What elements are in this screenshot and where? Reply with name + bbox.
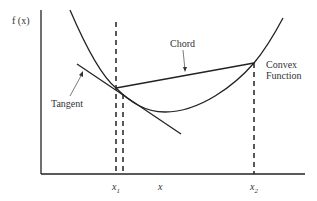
convex-curve	[70, 10, 283, 112]
tick-label-x1: x1	[112, 181, 120, 197]
y-axis-label: f (x)	[12, 15, 30, 26]
convex-label-line2: Function	[266, 70, 302, 81]
tick-label-x2: x2	[250, 181, 258, 197]
chord-arrowhead	[183, 67, 187, 72]
tangent-label: Tangent	[51, 98, 83, 109]
convex-label-line1: Convex	[266, 59, 297, 70]
tangent-line	[77, 64, 181, 134]
tick-label-x: x	[158, 181, 162, 192]
convex-function-diagram	[0, 0, 317, 201]
chord-label: Chord	[170, 38, 195, 49]
tangent-arrow	[70, 74, 82, 96]
